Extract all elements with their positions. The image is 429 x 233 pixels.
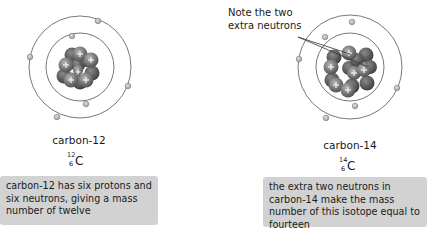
atomic-number: 6 <box>69 160 73 168</box>
element-symbol: C <box>347 159 355 173</box>
extra-neutrons-annotation: Note the two extra neutrons <box>228 7 318 32</box>
carbon-14-label: carbon-14 <box>300 139 400 151</box>
atomic-number: 6 <box>341 165 345 173</box>
carbon-12-symbol: 12 6 C <box>67 151 107 173</box>
carbon-14-symbol: 14 6 C <box>339 156 379 178</box>
carbon-14-description-box: the extra two neutrons in carbon-14 make… <box>263 177 427 227</box>
carbon-12-description-box: carbon-12 has six protons and six neutro… <box>0 176 158 225</box>
element-symbol: C <box>75 154 83 168</box>
carbon-12-label: carbon-12 <box>29 134 129 146</box>
